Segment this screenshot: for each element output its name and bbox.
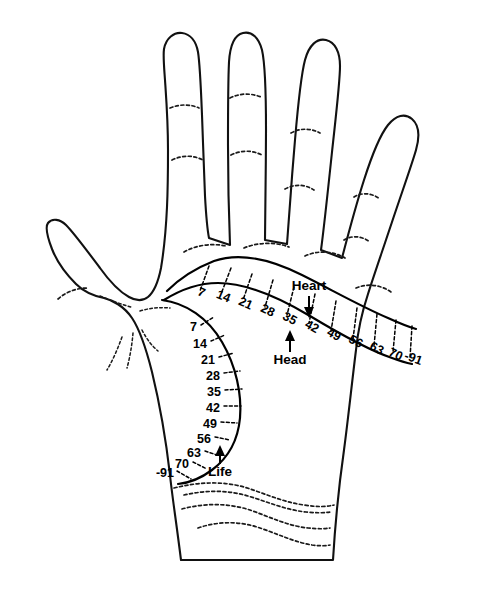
life-tick-49 — [221, 422, 237, 423]
life-age-21: 21 — [201, 353, 215, 367]
life-age-35: 35 — [207, 385, 221, 399]
life-age-70: 70 — [175, 457, 189, 471]
palm-illustration: 7 14 21 28 35 42 49 56 63 70 -91 7 14 21… — [0, 0, 489, 614]
life-age-49: 49 — [203, 417, 217, 431]
life-age-91: -91 — [156, 466, 174, 480]
web-line-2 — [127, 333, 133, 368]
web-line-1 — [107, 337, 122, 370]
life-label: Life — [208, 464, 232, 479]
heart-label: Heart — [292, 278, 327, 293]
head-label: Head — [273, 352, 306, 367]
life-age-63: 63 — [187, 446, 201, 460]
life-age-56: 56 — [197, 432, 211, 446]
life-age-42: 42 — [206, 401, 220, 415]
life-age-28: 28 — [206, 369, 220, 383]
life-age-7: 7 — [190, 320, 197, 334]
band-age-91: -91 — [402, 349, 424, 368]
life-age-14: 14 — [193, 337, 207, 351]
palmistry-diagram: 7 14 21 28 35 42 49 56 63 70 -91 7 14 21… — [0, 0, 489, 614]
